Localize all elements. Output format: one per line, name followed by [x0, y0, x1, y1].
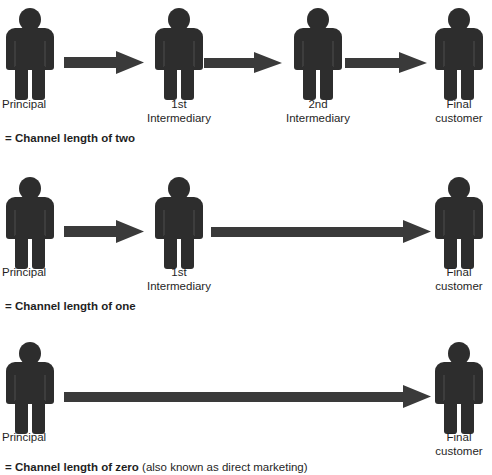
person-leg-right	[181, 66, 194, 100]
person-icon-principal	[6, 177, 54, 269]
arrow-principal-to-first-intermediary	[64, 219, 144, 244]
person-leg-left	[15, 235, 28, 269]
person-leg-right	[461, 400, 474, 434]
caption-plain-text: (also known as direct marketing)	[139, 461, 308, 473]
caption-bold-text: = Channel length of one	[5, 300, 136, 312]
node-label-principal: Principal	[2, 98, 122, 112]
person-leg-right	[32, 235, 45, 269]
person-icon-first-intermediary	[155, 177, 203, 269]
person-leg-right	[181, 235, 194, 269]
person-icon-first-intermediary	[155, 8, 203, 100]
person-arm-left	[163, 41, 165, 67]
person-icon-principal	[6, 8, 54, 100]
arrow-first-intermediary-to-final-customer	[211, 219, 431, 244]
arrow-second-intermediary-to-final-customer	[345, 52, 427, 74]
person-leg-right	[320, 66, 333, 100]
person-leg-left	[444, 66, 457, 100]
person-arm-right	[332, 41, 334, 67]
person-arm-left	[443, 41, 445, 67]
person-arm-left	[14, 210, 16, 236]
person-arm-left	[443, 210, 445, 236]
node-label-principal: Principal	[2, 266, 122, 280]
person-leg-right	[32, 66, 45, 100]
person-leg-left	[15, 66, 28, 100]
caption-channel-length-zero: = Channel length of zero (also known as …	[5, 460, 308, 474]
caption-bold-text: = Channel length of zero	[5, 461, 139, 473]
node-label-principal: Principal	[2, 431, 122, 445]
node-label-first-intermediary: 1st Intermediary	[124, 266, 234, 293]
person-arm-right	[193, 210, 195, 236]
person-arm-right	[44, 375, 46, 401]
person-icon-final-customer	[435, 177, 483, 269]
person-leg-left	[303, 66, 316, 100]
person-leg-left	[164, 66, 177, 100]
node-label-final-customer: Final customer	[404, 431, 492, 458]
arrow-principal-to-final-customer	[64, 384, 431, 409]
person-arm-right	[473, 210, 475, 236]
person-arm-right	[473, 41, 475, 67]
arrow-first-to-second-intermediary	[204, 52, 282, 74]
node-label-second-intermediary: 2nd Intermediary	[263, 98, 373, 125]
diagram-row-channel-length-one: Principal 1st Intermediary	[0, 160, 492, 320]
person-leg-left	[444, 235, 457, 269]
node-label-final-customer: Final customer	[404, 266, 492, 293]
person-arm-left	[163, 210, 165, 236]
person-leg-right	[461, 66, 474, 100]
person-arm-right	[44, 210, 46, 236]
channel-length-diagram: Principal 1st Intermediary	[0, 0, 492, 475]
diagram-row-channel-length-two: Principal 1st Intermediary	[0, 0, 492, 160]
person-icon-second-intermediary	[294, 8, 342, 100]
person-arm-left	[14, 375, 16, 401]
node-label-final-customer: Final customer	[404, 98, 492, 125]
person-icon-final-customer	[435, 342, 483, 434]
person-leg-right	[32, 400, 45, 434]
person-arm-left	[302, 41, 304, 67]
person-icon-principal	[6, 342, 54, 434]
person-leg-right	[461, 235, 474, 269]
caption-channel-length-two: = Channel length of two	[5, 131, 135, 145]
person-arm-left	[443, 375, 445, 401]
person-arm-right	[193, 41, 195, 67]
node-label-first-intermediary: 1st Intermediary	[124, 98, 234, 125]
person-arm-right	[44, 41, 46, 67]
caption-channel-length-one: = Channel length of one	[5, 299, 136, 313]
arrow-principal-to-first-intermediary	[64, 50, 144, 75]
person-icon-final-customer	[435, 8, 483, 100]
person-leg-left	[444, 400, 457, 434]
person-arm-right	[473, 375, 475, 401]
caption-bold-text: = Channel length of two	[5, 132, 135, 144]
person-arm-left	[14, 41, 16, 67]
person-leg-left	[15, 400, 28, 434]
diagram-row-channel-length-zero: Principal Final customer = Channel lengt…	[0, 320, 492, 475]
person-leg-left	[164, 235, 177, 269]
